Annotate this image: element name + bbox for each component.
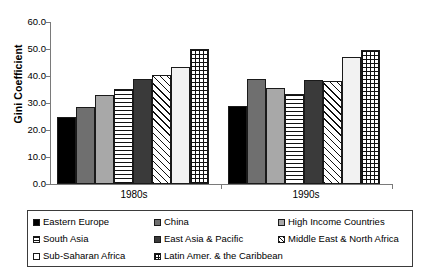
bar [152, 75, 171, 184]
legend-swatch-icon [278, 236, 285, 243]
legend-item-label: China [164, 217, 189, 227]
legend-item-label: East Asia & Pacific [164, 234, 243, 244]
legend-swatch-icon [154, 219, 161, 226]
bar [266, 88, 285, 184]
bar [228, 106, 247, 184]
bar [247, 79, 266, 184]
legend-item: Middle East & North Africa [278, 234, 399, 244]
bar [323, 81, 342, 184]
bar [285, 94, 304, 184]
bar [171, 67, 190, 184]
bar [190, 49, 209, 184]
bar [133, 79, 152, 184]
plot-area: Gini Coefficient 60.0 50.0 40.0 30.0 20.… [0, 0, 421, 200]
legend-swatch-icon [33, 253, 40, 260]
bar [304, 80, 323, 184]
bars-layer [0, 0, 421, 200]
legend-item: East Asia & Pacific [154, 234, 243, 244]
legend-item: China [154, 217, 189, 227]
legend-item-label: Eastern Europe [43, 217, 109, 227]
legend-item: South Asia [33, 234, 88, 244]
x-tick-label: 1990s [246, 189, 366, 200]
legend-item: Latin Amer. & the Caribbean [154, 251, 283, 261]
legend-item-label: Middle East & North Africa [288, 234, 399, 244]
legend-item: Sub-Saharan Africa [33, 251, 125, 261]
legend-swatch-icon [33, 219, 40, 226]
bar [95, 95, 114, 184]
legend-swatch-icon [154, 236, 161, 243]
legend-swatch-icon [278, 219, 285, 226]
legend-swatch-icon [154, 253, 161, 260]
legend-item-label: South Asia [43, 234, 88, 244]
x-tick-label: 1980s [74, 189, 194, 200]
bar [76, 107, 95, 184]
bar-chart: Gini Coefficient 60.0 50.0 40.0 30.0 20.… [0, 0, 421, 274]
bar [361, 50, 380, 184]
bar [57, 117, 76, 185]
legend-item: High Income Countries [278, 217, 385, 227]
chart-legend: Eastern EuropeSouth AsiaSub-Saharan Afri… [27, 210, 413, 267]
legend-item-label: High Income Countries [288, 217, 385, 227]
bar [114, 89, 133, 184]
legend-item: Eastern Europe [33, 217, 109, 227]
legend-swatch-icon [33, 236, 40, 243]
legend-item-label: Sub-Saharan Africa [43, 251, 125, 261]
legend-item-label: Latin Amer. & the Caribbean [164, 251, 283, 261]
bar [342, 57, 361, 184]
